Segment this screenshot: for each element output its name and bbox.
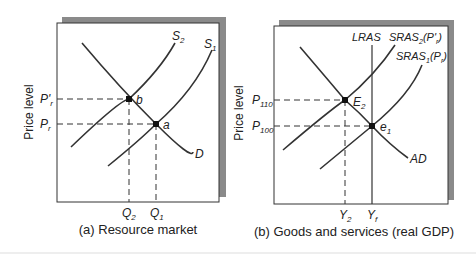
panel-b-ylabel: Price level (232, 85, 246, 140)
y-tick-p-r: Pr (40, 117, 51, 133)
point-a (153, 121, 159, 127)
y-tick-p100: P100 (252, 119, 274, 135)
d-label: D (195, 147, 204, 161)
x-tick-yf: Yf (367, 208, 378, 224)
lras-label: LRAS (352, 31, 381, 43)
y-tick-p110: P110 (252, 93, 273, 109)
x-tick-q1: Q1 (150, 206, 164, 222)
y-tick-p-prime-r: P'r (40, 92, 53, 108)
panel-a-ylabel: Price level (22, 84, 36, 139)
panel-a-caption: (a) Resource market (79, 222, 198, 237)
panel-a: b a S2 S1 D P'r Pr Price level Q2 Q1 (a)… (22, 17, 226, 237)
diagram-canvas: b a S2 S1 D P'r Pr Price level Q2 Q1 (a)… (0, 0, 476, 255)
point-a-label: a (163, 118, 170, 132)
panel-b: E2 e1 LRAS SRAS2(P'r) SRAS1(Pr) AD P110 … (232, 20, 454, 239)
point-e1 (369, 123, 375, 129)
x-tick-y2: Y2 (339, 208, 352, 224)
sras1-label: SRAS1(Pr) (396, 50, 447, 64)
panel-a-frame (57, 23, 219, 202)
point-b-label: b (136, 93, 143, 107)
sras2-label: SRAS2(P'r) (389, 31, 442, 45)
ad-label: AD (409, 152, 427, 166)
x-tick-q2: Q2 (122, 206, 136, 222)
point-b (126, 96, 132, 102)
point-e2 (342, 97, 348, 103)
panel-b-caption: (b) Goods and services (real GDP) (254, 224, 454, 239)
